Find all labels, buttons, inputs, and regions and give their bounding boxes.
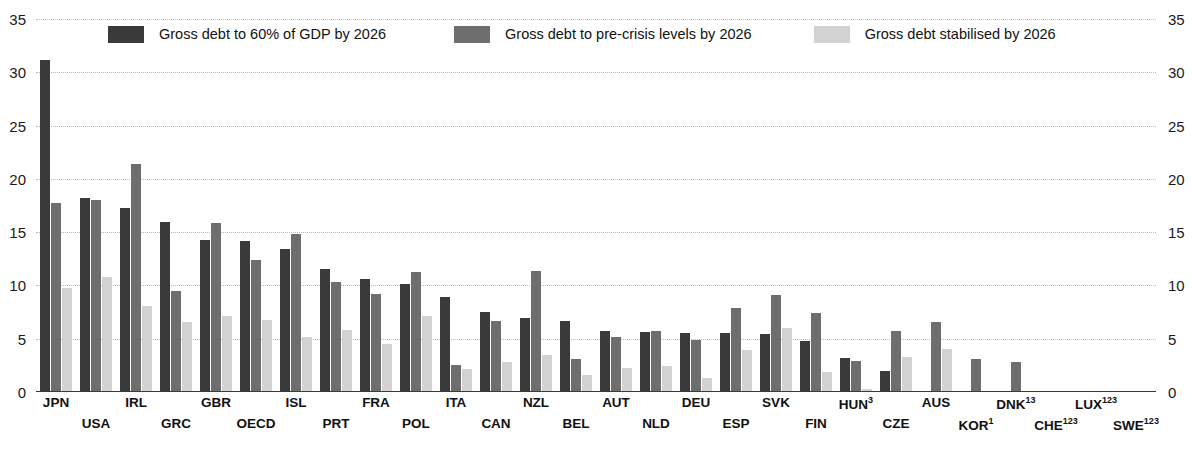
y-axis-right-tick-10: 10	[1168, 278, 1185, 293]
bar-isl-series2	[302, 337, 312, 392]
bar-group-isl	[276, 19, 316, 392]
legend-item-0: Gross debt to 60% of GDP by 2026	[108, 26, 386, 43]
x-label-irl: IRL	[125, 396, 147, 410]
x-axis-labels: JPNUSAIRLGRCGBROECDISLPRTFRAPOLITACANNZL…	[36, 393, 1156, 455]
bar-ita-series1	[451, 365, 461, 392]
x-label-footnote-che: 123	[1063, 416, 1078, 426]
plot-area	[36, 19, 1156, 392]
bar-aut-series1	[611, 337, 621, 392]
bar-group-esp	[716, 19, 756, 392]
bar-irl-series0	[120, 208, 130, 392]
y-axis-right-tick-15: 15	[1168, 225, 1185, 240]
legend-swatch-0	[108, 26, 144, 43]
bar-cze-series1	[891, 331, 901, 392]
legend-swatch-2	[814, 26, 850, 43]
bar-deu-series0	[680, 333, 690, 392]
x-label-hun: HUN3	[839, 396, 873, 411]
bar-group-usa	[76, 19, 116, 392]
x-label-aut: AUT	[602, 396, 630, 410]
bar-fin-series1	[811, 313, 821, 392]
bar-hun-series1	[851, 361, 861, 392]
x-label-nzl: NZL	[523, 396, 549, 410]
bar-fra-series2	[382, 344, 392, 392]
bar-irl-series2	[142, 306, 152, 392]
bar-dnk-series1	[1011, 362, 1021, 392]
bar-group-grc	[156, 19, 196, 392]
x-label-kor: KOR1	[958, 417, 993, 432]
bar-bel-series2	[582, 375, 592, 392]
bar-esp-series2	[742, 350, 752, 392]
bar-svk-series2	[782, 328, 792, 392]
y-axis-left-tick-10: 10	[9, 278, 26, 293]
bar-fin-series2	[822, 372, 832, 392]
bar-hun-series0	[840, 358, 850, 392]
bar-kor-series1	[971, 359, 981, 392]
x-label-nld: NLD	[642, 417, 670, 431]
bar-jpn-series0	[40, 60, 50, 393]
bar-cze-series0	[880, 371, 890, 392]
x-label-grc: GRC	[161, 417, 191, 431]
bar-group-che	[1036, 19, 1076, 392]
bar-nzl-series0	[520, 318, 530, 392]
bar-nld-series0	[640, 332, 650, 392]
x-label-jpn: JPN	[43, 396, 69, 410]
bar-bel-series0	[560, 321, 570, 392]
bar-ita-series2	[462, 369, 472, 392]
bar-esp-series1	[731, 308, 741, 392]
bar-fin-series0	[800, 341, 810, 392]
bar-fra-series1	[371, 294, 381, 392]
x-label-lux: LUX123	[1075, 396, 1117, 411]
bar-svk-series0	[760, 334, 770, 392]
x-label-fin: FIN	[805, 417, 827, 431]
bar-group-deu	[676, 19, 716, 392]
bar-group-nzl	[516, 19, 556, 392]
x-label-isl: ISL	[285, 396, 306, 410]
bar-usa-series0	[80, 198, 90, 392]
bar-oecd-series1	[251, 260, 261, 392]
bar-jpn-series2	[62, 288, 72, 392]
bar-cze-series2	[902, 357, 912, 392]
legend-label-2: Gross debt stabilised by 2026	[865, 27, 1056, 42]
y-axis-left-tick-20: 20	[9, 171, 26, 186]
y-axis-right-tick-25: 25	[1168, 118, 1185, 133]
bar-can-series2	[502, 362, 512, 392]
bar-group-ita	[436, 19, 476, 392]
x-label-deu: DEU	[682, 396, 711, 410]
y-axis-right-tick-5: 5	[1168, 331, 1176, 346]
x-label-prt: PRT	[323, 417, 350, 431]
bar-nld-series2	[662, 366, 672, 392]
chart-legend: Gross debt to 60% of GDP by 2026Gross de…	[108, 22, 1098, 46]
x-label-aus: AUS	[922, 396, 951, 410]
x-label-esp: ESP	[722, 417, 749, 431]
bar-prt-series1	[331, 282, 341, 392]
bar-group-oecd	[236, 19, 276, 392]
bar-group-irl	[116, 19, 156, 392]
bar-chart: 35302520151050 35302520151050 Gross debt…	[0, 0, 1192, 459]
x-label-usa: USA	[82, 417, 111, 431]
bar-isl-series1	[291, 234, 301, 392]
bar-grc-series2	[182, 322, 192, 392]
bar-gbr-series0	[200, 240, 210, 392]
bar-group-svk	[756, 19, 796, 392]
bar-group-lux	[1076, 19, 1116, 392]
bar-grc-series0	[160, 222, 170, 393]
legend-item-1: Gross debt to pre-crisis levels by 2026	[454, 26, 752, 43]
y-axis-left: 35302520151050	[0, 19, 30, 392]
bar-group-kor	[956, 19, 996, 392]
bar-group-aut	[596, 19, 636, 392]
bar-group-gbr	[196, 19, 236, 392]
bar-svk-series1	[771, 295, 781, 392]
x-label-can: CAN	[481, 417, 510, 431]
bar-ita-series0	[440, 297, 450, 392]
bar-group-jpn	[36, 19, 76, 392]
bar-fra-series0	[360, 279, 370, 392]
bar-grc-series1	[171, 291, 181, 392]
bar-group-fin	[796, 19, 836, 392]
x-label-che: CHE123	[1034, 417, 1078, 432]
bar-aus-series2	[942, 349, 952, 392]
bar-group-aus	[916, 19, 956, 392]
y-axis-left-tick-35: 35	[9, 12, 26, 27]
x-label-footnote-kor: 1	[988, 416, 993, 426]
zero-axis-line	[36, 391, 1156, 392]
x-label-footnote-swe: 123	[1144, 416, 1159, 426]
